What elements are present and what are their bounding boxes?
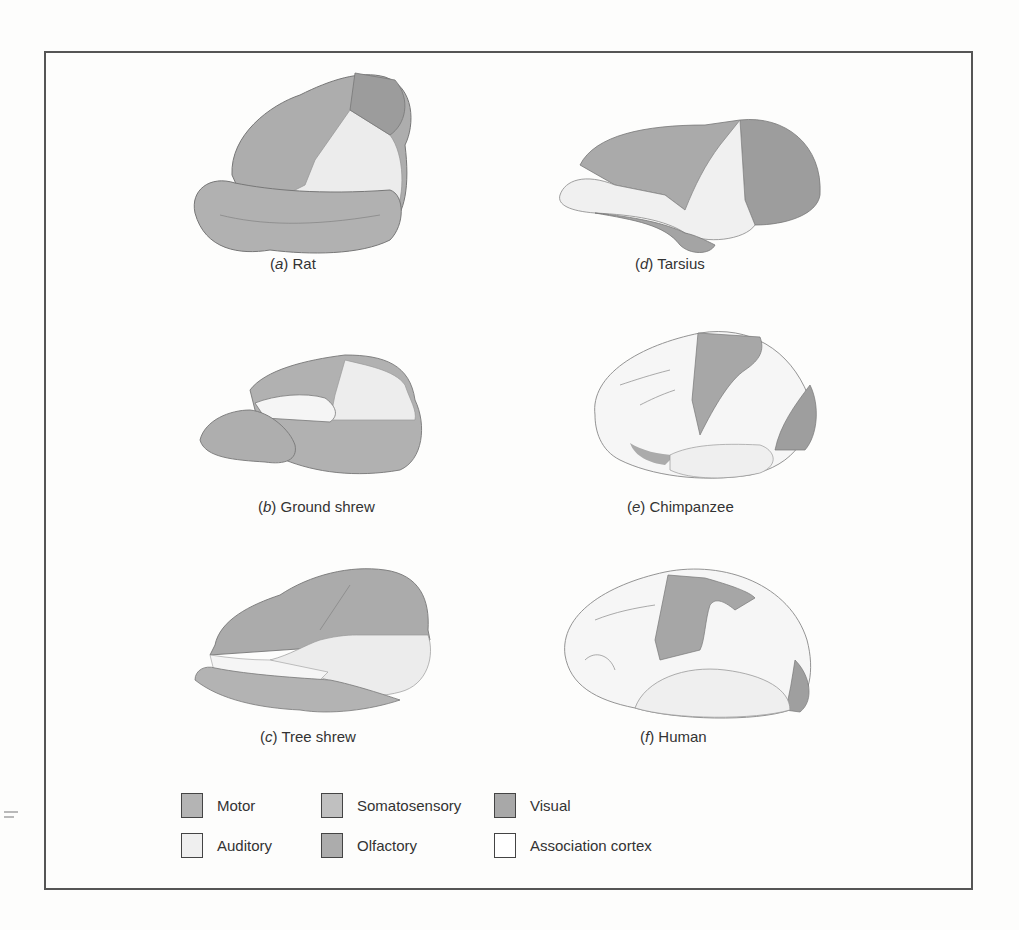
caption-letter: c	[265, 728, 273, 745]
brain-illustration-tarsius	[555, 105, 835, 255]
legend-label: Somatosensory	[357, 797, 461, 814]
caption-name: Rat	[293, 255, 316, 272]
legend-item-association-cortex: Association cortex	[494, 832, 652, 858]
legend-item-visual: Visual	[494, 792, 571, 818]
caption-name: Ground shrew	[281, 498, 375, 515]
caption-ground-shrew: (b) Ground shrew	[258, 498, 375, 515]
panel-chimpanzee	[580, 325, 820, 485]
legend-item-somatosensory: Somatosensory	[321, 792, 461, 818]
caption-chimpanzee: (e) Chimpanzee	[627, 498, 734, 515]
panel-rat	[190, 65, 420, 260]
brain-illustration-tree-shrew	[190, 560, 445, 715]
caption-name: Tree shrew	[281, 728, 355, 745]
motor-swatch	[181, 793, 203, 818]
brain-illustration-human	[555, 560, 820, 725]
visual-swatch	[494, 793, 516, 818]
caption-letter: e	[632, 498, 640, 515]
brain-illustration-chimpanzee	[580, 325, 820, 485]
caption-tarsius: (d) Tarsius	[635, 255, 705, 272]
legend-label: Olfactory	[357, 837, 417, 854]
caption-name: Chimpanzee	[650, 498, 734, 515]
brain-illustration-ground-shrew	[195, 340, 435, 480]
caption-letter: f	[645, 728, 649, 745]
somatosensory-swatch	[321, 793, 343, 818]
brain-illustration-rat	[190, 65, 420, 260]
legend-label: Visual	[530, 797, 571, 814]
panel-ground-shrew	[195, 340, 435, 480]
caption-human: (f) Human	[640, 728, 707, 745]
caption-letter: a	[275, 255, 283, 272]
legend-label: Motor	[217, 797, 255, 814]
caption-name: Tarsius	[657, 255, 705, 272]
margin-note-marks	[0, 808, 26, 824]
caption-name: Human	[658, 728, 706, 745]
caption-tree-shrew: (c) Tree shrew	[260, 728, 356, 745]
association-cortex-swatch	[494, 833, 516, 858]
legend-label: Auditory	[217, 837, 272, 854]
panel-tree-shrew	[190, 560, 445, 715]
caption-letter: b	[263, 498, 271, 515]
legend-item-olfactory: Olfactory	[321, 832, 417, 858]
panel-human	[555, 560, 820, 725]
auditory-swatch	[181, 833, 203, 858]
caption-rat: (a) Rat	[270, 255, 316, 272]
legend-label: Association cortex	[530, 837, 652, 854]
legend-item-auditory: Auditory	[181, 832, 272, 858]
legend-item-motor: Motor	[181, 792, 255, 818]
panel-tarsius	[555, 105, 835, 255]
olfactory-swatch	[321, 833, 343, 858]
caption-letter: d	[640, 255, 648, 272]
